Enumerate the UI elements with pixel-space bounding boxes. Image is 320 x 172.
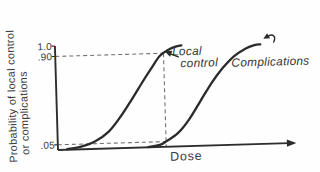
y-tick-005: .05 xyxy=(40,139,55,150)
plot-area: 1.0 .90 .05 Dose Probability of local co… xyxy=(3,21,312,168)
y-axis-label-line2: or complications xyxy=(17,71,31,155)
complications-label: Complications xyxy=(231,54,309,70)
x-axis-arrowhead-icon xyxy=(287,139,297,146)
ref-line-dose xyxy=(163,53,166,147)
ref-line-090 xyxy=(55,53,163,56)
x-axis-label: Dose xyxy=(170,149,203,164)
local-control-label-line2: control xyxy=(180,55,218,70)
y-tick-090: .90 xyxy=(38,51,53,62)
figure-canvas: 1.0 .90 .05 Dose Probability of local co… xyxy=(0,0,320,172)
y-axis xyxy=(55,46,58,150)
ref-line-005 xyxy=(58,142,169,145)
complications-hook-arrow-icon xyxy=(263,33,275,42)
dose-response-chart: 1.0 .90 .05 Dose Probability of local co… xyxy=(0,0,320,172)
